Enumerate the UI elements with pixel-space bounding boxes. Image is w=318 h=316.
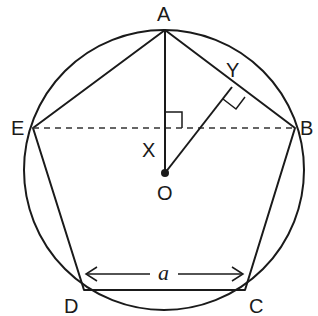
label-a-vertex: A [157,3,171,25]
label-side-a: a [158,260,169,285]
label-c-vertex: C [249,295,263,316]
segment-oy [165,87,232,173]
label-e-vertex: E [11,117,24,139]
right-angle-marker-x [165,112,182,128]
label-d-vertex: D [64,295,78,316]
label-y-point: Y [226,59,239,81]
label-b-vertex: B [300,117,313,139]
label-x-point: X [142,139,155,161]
pentagon-diagram: A B C D E O X Y a [0,0,318,316]
label-o-center: O [157,182,173,204]
center-point-o [161,169,169,177]
right-angle-marker-y [223,97,245,109]
